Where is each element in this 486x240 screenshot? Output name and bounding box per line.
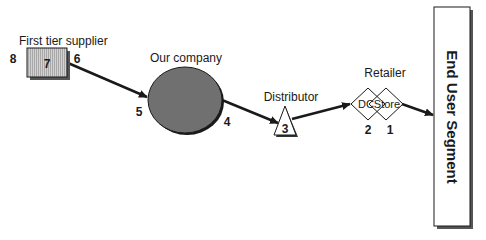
supply-chain-diagram: First tier supplier 7 8 6 Our company 5 … xyxy=(0,0,486,240)
distributor-inner-number: 3 xyxy=(282,122,289,136)
company-node[interactable]: Our company 5 4 xyxy=(136,51,231,135)
end-user-node[interactable]: End User Segment xyxy=(434,7,473,229)
company-ellipse xyxy=(148,67,222,133)
company-right-number: 4 xyxy=(224,115,231,129)
retailer-label: Retailer xyxy=(364,66,405,80)
supplier-right-number: 6 xyxy=(74,52,81,66)
retailer-node[interactable]: Retailer DC Store 2 1 xyxy=(351,66,406,137)
edge-distributor-to-retailer xyxy=(292,104,350,119)
edge-supplier-to-company xyxy=(68,63,147,97)
retailer-store-number: 1 xyxy=(387,123,394,137)
company-left-number: 5 xyxy=(136,105,143,119)
supplier-inner-number: 7 xyxy=(44,57,51,71)
company-label: Our company xyxy=(150,51,222,65)
distributor-label: Distributor xyxy=(264,90,319,104)
edge-retailer-to-end-user xyxy=(402,104,433,115)
retailer-dc-number: 2 xyxy=(365,123,372,137)
retailer-store-label: Store xyxy=(374,98,400,110)
retailer-dc-label: DC xyxy=(358,98,374,110)
end-user-label: End User Segment xyxy=(444,50,461,183)
supplier-label: First tier supplier xyxy=(19,34,108,48)
supplier-left-number: 8 xyxy=(10,52,17,66)
